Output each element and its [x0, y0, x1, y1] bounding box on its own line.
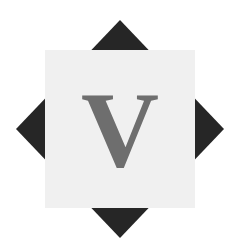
logo-svg: V	[0, 0, 238, 250]
monogram-letter: V	[81, 70, 159, 189]
logo-canvas: V	[0, 0, 238, 250]
